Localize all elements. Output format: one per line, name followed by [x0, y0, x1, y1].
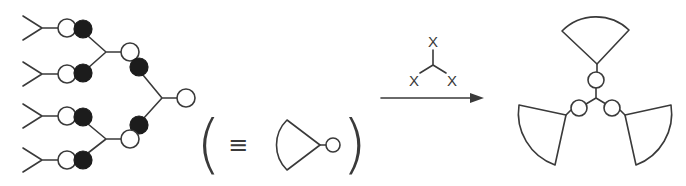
sector-right-icon — [625, 105, 672, 165]
bead-pair-row-4 — [58, 151, 92, 169]
open-bead — [58, 107, 76, 125]
focal-bead — [177, 89, 195, 107]
equivalence-group: ( ≡ ) — [196, 107, 367, 181]
core-bead-top — [588, 72, 604, 88]
dendron-full — [23, 16, 195, 172]
sector-left-icon — [518, 105, 566, 165]
shorthand-focal-bead — [326, 138, 340, 152]
reagent-core: X X X — [409, 33, 457, 89]
bead-pair-row-3 — [58, 107, 92, 126]
reagent-x-right: X — [447, 72, 457, 89]
filled-bead — [130, 58, 148, 76]
core-bead-left — [571, 100, 587, 116]
filled-bead — [74, 64, 92, 82]
close-paren: ) — [342, 107, 367, 181]
sector-top-icon — [562, 17, 629, 64]
bead-pair-gen2-top — [121, 43, 148, 76]
bead-pair-gen2-bottom — [121, 116, 148, 148]
equiv-symbol: ≡ — [228, 131, 248, 159]
open-bead — [58, 151, 76, 169]
open-bead — [58, 19, 76, 37]
dendron-shorthand-icon — [276, 120, 320, 170]
reaction-arrow-icon — [381, 93, 484, 103]
open-bead — [58, 65, 76, 83]
reagent-x-left: X — [409, 72, 419, 89]
open-bead — [121, 130, 139, 148]
product-dendrimer — [518, 17, 671, 165]
open-paren: ( — [196, 107, 221, 181]
filled-bead — [74, 108, 92, 126]
filled-bead — [74, 20, 92, 38]
reaction-scheme: ( ≡ ) X X X — [0, 0, 686, 186]
bead-pair-row-1 — [58, 19, 92, 38]
filled-bead — [74, 151, 92, 169]
bead-pair-row-2 — [58, 64, 92, 83]
dendron-bonds — [23, 16, 177, 172]
reagent-x-top: X — [428, 33, 438, 50]
core-bead-right — [604, 100, 620, 116]
